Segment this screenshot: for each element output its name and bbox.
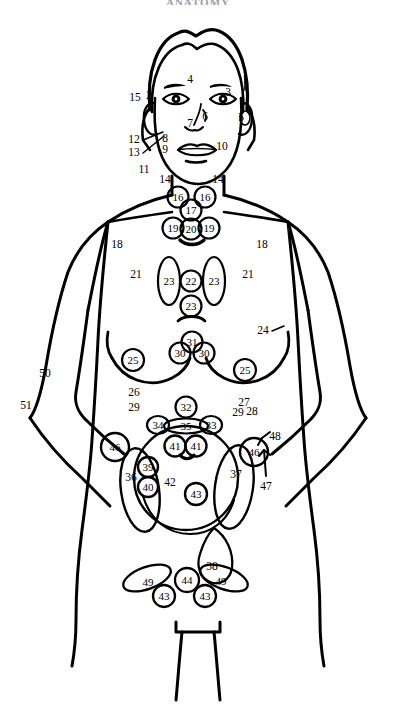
landmark-label-24: 24 bbox=[257, 325, 269, 337]
landmark-label-31: 31 bbox=[187, 337, 198, 348]
landmark-label-11: 11 bbox=[138, 164, 149, 176]
landmark-label-42: 42 bbox=[164, 477, 176, 489]
eye-right bbox=[210, 94, 236, 105]
landmark-label-9: 9 bbox=[162, 144, 168, 156]
groin bbox=[176, 622, 220, 700]
landmark-label-10: 10 bbox=[216, 141, 228, 153]
landmark-label-3: 3 bbox=[225, 87, 231, 99]
landmark-label-16: 16 bbox=[200, 192, 211, 203]
landmark-label-23: 23 bbox=[164, 276, 175, 287]
landmark-label-35: 35 bbox=[181, 421, 192, 432]
landmark-label-41: 41 bbox=[170, 441, 181, 452]
mouth bbox=[178, 144, 216, 162]
hair-outline bbox=[142, 30, 254, 150]
landmark-label-14: 14 bbox=[212, 174, 224, 186]
eyebrows bbox=[164, 84, 232, 89]
landmark-label-44: 44 bbox=[182, 575, 193, 586]
landmark-label-17: 17 bbox=[186, 205, 197, 216]
landmark-label-43: 43 bbox=[159, 591, 170, 602]
organ-lower-pelvis-group bbox=[120, 528, 252, 607]
landmark-label-18: 18 bbox=[256, 239, 268, 251]
landmark-label-21: 21 bbox=[130, 269, 142, 281]
landmark-label-29: 29 bbox=[232, 407, 244, 419]
landmark-label-14: 14 bbox=[159, 174, 171, 186]
landmark-label-25: 25 bbox=[240, 365, 251, 376]
landmark-label-51: 51 bbox=[20, 400, 32, 412]
organ-breast-nodes bbox=[122, 349, 256, 381]
landmark-label-46: 46 bbox=[249, 447, 260, 458]
landmark-label-25: 25 bbox=[128, 355, 139, 366]
landmark-label-16: 16 bbox=[173, 192, 184, 203]
eye-left bbox=[163, 94, 189, 105]
landmark-label-43: 43 bbox=[191, 489, 202, 500]
landmark-label-19: 19 bbox=[204, 223, 215, 234]
landmark-label-50: 50 bbox=[39, 368, 51, 380]
landmark-label-47: 47 bbox=[260, 481, 272, 493]
landmark-label-1: 1 bbox=[242, 74, 248, 86]
landmark-label-49: 49 bbox=[216, 576, 227, 587]
chest-leader-line bbox=[272, 326, 284, 331]
landmark-label-34: 34 bbox=[153, 420, 164, 431]
landmark-label-22: 22 bbox=[186, 276, 197, 287]
landmark-label-38: 38 bbox=[206, 561, 218, 573]
landmark-label-33: 33 bbox=[206, 420, 217, 431]
landmark-label-36: 36 bbox=[125, 472, 137, 484]
landmark-label-30: 30 bbox=[199, 348, 210, 359]
landmark-label-40: 40 bbox=[143, 482, 154, 493]
landmark-label-29: 29 bbox=[128, 402, 140, 414]
landmark-label-4: 4 bbox=[187, 74, 193, 86]
landmark-label-28: 28 bbox=[246, 406, 258, 418]
landmark-label-26: 26 bbox=[128, 387, 140, 399]
landmark-label-18: 18 bbox=[111, 239, 123, 251]
landmark-label-43: 43 bbox=[200, 591, 211, 602]
landmark-label-20: 20 bbox=[186, 224, 197, 235]
landmark-label-13: 13 bbox=[128, 147, 140, 159]
landmark-label-41: 41 bbox=[191, 441, 202, 452]
landmark-label-48: 48 bbox=[269, 431, 281, 443]
landmark-label-49: 49 bbox=[143, 577, 154, 588]
landmark-label-15: 15 bbox=[129, 92, 141, 104]
landmark-label-21: 21 bbox=[242, 269, 254, 281]
landmark-label-46: 46 bbox=[110, 442, 121, 453]
landmark-label-23: 23 bbox=[186, 301, 197, 312]
anatomy-diagram: ANATOMY bbox=[0, 0, 396, 710]
landmark-label-2: 2 bbox=[146, 90, 152, 102]
landmark-label-12: 12 bbox=[128, 134, 140, 146]
landmark-label-19: 19 bbox=[168, 223, 179, 234]
landmark-label-7: 7 bbox=[187, 118, 193, 130]
landmark-label-37: 37 bbox=[230, 469, 242, 481]
landmark-label-32: 32 bbox=[181, 402, 192, 413]
landmark-label-6: 6 bbox=[202, 111, 208, 123]
landmark-label-39: 39 bbox=[143, 462, 154, 473]
landmark-label-5: 5 bbox=[238, 112, 244, 124]
landmark-label-23: 23 bbox=[209, 276, 220, 287]
landmark-label-30: 30 bbox=[175, 348, 186, 359]
